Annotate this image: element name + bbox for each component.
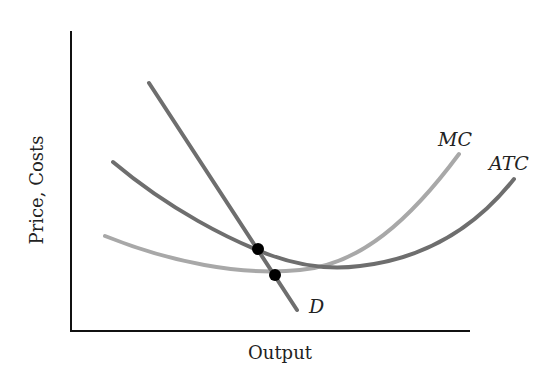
y-axis-label: Price, Costs [26, 136, 47, 245]
mc-curve [105, 154, 459, 271]
mc-label: MC [437, 128, 472, 150]
cost-curves-diagram: MC ATC D Output Price, Costs [0, 0, 560, 377]
x-axis-label: Output [248, 342, 313, 363]
d-atc-intersection-point [252, 243, 264, 255]
d-label: D [308, 295, 324, 317]
d-mc-intersection-point [269, 269, 281, 281]
atc-curve [113, 162, 514, 268]
atc-label: ATC [487, 152, 529, 174]
